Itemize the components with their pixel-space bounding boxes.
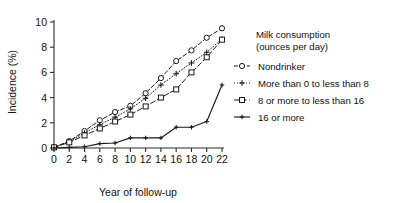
x-tick-label: 22 [216, 153, 228, 165]
chart-figure: 0246810 0246810121416182022 Incidence (%… [0, 0, 393, 203]
legend-entries: NondrinkerMore than 0 to less than 88 or… [234, 61, 369, 123]
marker-circle [189, 48, 194, 53]
x-axis-title: Year of follow-up [99, 186, 177, 198]
marker-circle [158, 75, 163, 80]
legend-title-line-1: Milk consumption [256, 29, 330, 40]
y-tick-label: 2 [41, 117, 47, 129]
marker-square [143, 104, 148, 109]
legend-label: More than 0 to less than 8 [258, 78, 369, 89]
series-path [54, 40, 222, 148]
series-2 [51, 36, 225, 150]
legend-title-line-2: (ounces per day) [256, 41, 328, 52]
series-path [54, 28, 222, 147]
legend-item-4: 16 or more [234, 112, 304, 123]
marker-square [67, 140, 72, 145]
y-tick-label: 0 [41, 142, 47, 154]
x-tick-label: 6 [97, 153, 103, 165]
marker-square [189, 70, 194, 75]
x-tick-label: 10 [125, 153, 137, 165]
y-axis-title: Incidence (%) [6, 50, 18, 114]
series-path [54, 85, 222, 148]
series-1 [51, 26, 224, 150]
x-tick-label: 2 [66, 153, 72, 165]
x-tick-label: 0 [51, 153, 57, 165]
series-4 [52, 83, 224, 150]
y-tick-label: 4 [41, 92, 47, 104]
legend-item-1: Nondrinker [234, 61, 306, 72]
legend-item-2: More than 0 to less than 8 [234, 78, 369, 89]
legend-label: 8 or more to less than 16 [258, 95, 364, 106]
x-tick-label: 18 [186, 153, 198, 165]
x-tick-label: 8 [112, 153, 118, 165]
y-tick-label: 6 [41, 66, 47, 78]
y-tick-label: 8 [41, 41, 47, 53]
chart-legend: Milk consumption (ounces per day) Nondri… [234, 29, 369, 123]
x-tick-label: 16 [170, 153, 182, 165]
legend-label: Nondrinker [258, 61, 306, 72]
legend-item-3: 8 or more to less than 16 [234, 95, 364, 106]
y-tick-label: 10 [35, 16, 47, 28]
x-axis: 0246810121416182022 [51, 148, 228, 165]
marker-circle [204, 35, 209, 40]
marker-square [113, 119, 118, 124]
marker-circle [143, 91, 148, 96]
marker-square [174, 87, 179, 92]
marker-square [82, 133, 87, 138]
legend-label: 16 or more [258, 112, 304, 123]
marker-square [204, 55, 209, 60]
series-path [54, 39, 222, 147]
marker-circle [174, 58, 179, 63]
marker-circle [239, 63, 244, 68]
marker-square [220, 37, 225, 42]
series-3 [52, 37, 225, 150]
incidence-line-chart: 0246810 0246810121416182022 Incidence (%… [0, 0, 393, 203]
data-series-group [51, 26, 225, 151]
marker-square [97, 126, 102, 131]
marker-circle [219, 26, 224, 31]
y-axis: 0246810 [35, 16, 54, 154]
x-tick-label: 20 [201, 153, 213, 165]
x-tick-label: 14 [155, 153, 167, 165]
x-tick-label: 4 [82, 153, 88, 165]
marker-circle [112, 109, 117, 114]
marker-square [158, 95, 163, 100]
marker-square [128, 112, 133, 117]
x-tick-label: 12 [140, 153, 152, 165]
marker-square [240, 98, 245, 103]
